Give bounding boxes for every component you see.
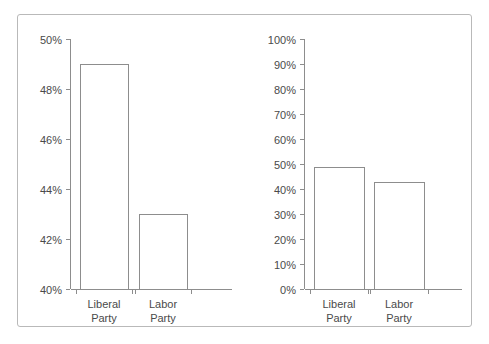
x-axis-tick-label: Party — [326, 312, 352, 324]
x-axis-tick-label: Liberal — [322, 298, 355, 310]
bar — [81, 65, 129, 290]
y-axis-tick-label: 70% — [274, 109, 296, 121]
y-axis-tick-label: 44% — [40, 184, 62, 196]
y-axis-tick-label: 60% — [274, 134, 296, 146]
y-axis-tick-label: 90% — [274, 59, 296, 71]
y-axis-tick-label: 40% — [40, 284, 62, 296]
bar — [375, 183, 425, 290]
x-axis-tick-label: Party — [386, 312, 412, 324]
y-axis-tick-label: 100% — [268, 34, 296, 46]
x-axis-tick-label: Party — [91, 312, 117, 324]
y-axis-tick-label: 46% — [40, 134, 62, 146]
x-axis-tick-label: Labor — [385, 298, 413, 310]
y-axis-tick-label: 50% — [40, 34, 62, 46]
y-axis-tick-label: 40% — [274, 184, 296, 196]
x-axis-tick-label: Party — [150, 312, 176, 324]
figure-frame: 40%42%44%46%48%50%LiberalPartyLaborParty… — [17, 14, 472, 327]
y-axis-tick-label: 10% — [274, 259, 296, 271]
bar — [140, 215, 188, 290]
x-axis-tick-label: Liberal — [87, 298, 120, 310]
bar-chart-truncated-axis: 40%42%44%46%48%50%LiberalPartyLaborParty — [18, 15, 246, 328]
y-axis-tick-label: 20% — [274, 234, 296, 246]
y-axis-tick-label: 0% — [280, 284, 296, 296]
y-axis-tick-label: 42% — [40, 234, 62, 246]
bar — [315, 168, 365, 290]
chart-canvas-truncated: 40%42%44%46%48%50%LiberalPartyLaborParty — [18, 15, 246, 328]
x-axis-tick-label: Labor — [149, 298, 177, 310]
y-axis-tick-label: 80% — [274, 84, 296, 96]
chart-canvas-full: 0%10%20%30%40%50%60%70%80%90%100%Liberal… — [246, 15, 473, 328]
y-axis-tick-label: 30% — [274, 209, 296, 221]
y-axis-tick-label: 48% — [40, 84, 62, 96]
bar-chart-full-axis: 0%10%20%30%40%50%60%70%80%90%100%Liberal… — [246, 15, 473, 328]
y-axis-tick-label: 50% — [274, 159, 296, 171]
